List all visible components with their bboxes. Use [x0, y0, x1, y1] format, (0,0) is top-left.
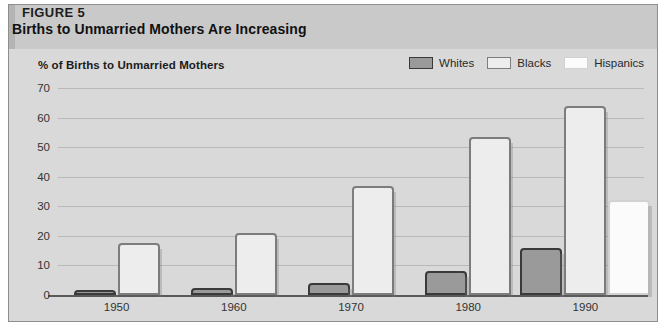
legend-item-blacks[interactable]: Blacks [487, 57, 551, 69]
legend-swatch-whites [409, 57, 433, 69]
x-axis-tick-1950: 1950 [104, 301, 130, 313]
y-axis-title: % of Births to Unmarried Mothers [38, 59, 225, 71]
bar-whites-1970[interactable] [308, 283, 350, 295]
chart-legend: WhitesBlacksHispanics [409, 57, 644, 69]
plot-area: 01020304050607019501960197019801990 [58, 88, 644, 295]
bar-blacks-1970[interactable] [352, 186, 394, 295]
gridline-70 [58, 88, 644, 89]
bar-group-1970 [308, 186, 394, 295]
bar-blacks-1950[interactable] [118, 243, 160, 295]
legend-label-hispanics: Hispanics [594, 57, 644, 69]
x-axis-tick-1970: 1970 [338, 301, 364, 313]
bar-whites-1990[interactable] [520, 248, 562, 295]
legend-swatch-blacks [487, 57, 511, 69]
figure-number: FIGURE 5 [22, 5, 85, 20]
y-axis-tick-0: 0 [44, 289, 50, 301]
x-axis-tick-1980: 1980 [455, 301, 481, 313]
legend-swatch-hispanics [564, 57, 588, 69]
y-axis-tick-10: 10 [37, 259, 50, 271]
figure-container: FIGURE 5 Births to Unmarried Mothers Are… [0, 0, 666, 336]
legend-item-hispanics[interactable]: Hispanics [564, 57, 644, 69]
y-axis-tick-50: 50 [37, 141, 50, 153]
bar-whites-1980[interactable] [425, 271, 467, 295]
bar-group-1960 [191, 233, 277, 295]
figure-title: Births to Unmarried Mothers Are Increasi… [12, 21, 307, 37]
legend-label-blacks: Blacks [517, 57, 551, 69]
legend-item-whites[interactable]: Whites [409, 57, 474, 69]
bar-whites-1950[interactable] [74, 290, 116, 295]
y-axis-tick-20: 20 [37, 230, 50, 242]
bar-whites-1960[interactable] [191, 288, 233, 295]
bar-blacks-1960[interactable] [235, 233, 277, 295]
y-axis-tick-30: 30 [37, 200, 50, 212]
bar-group-1950 [74, 243, 160, 295]
bar-group-1990 [520, 106, 650, 295]
y-axis-tick-60: 60 [37, 112, 50, 124]
x-axis-tick-1990: 1990 [573, 301, 599, 313]
bar-hispanics-1990[interactable] [608, 200, 650, 295]
bar-group-1980 [425, 137, 511, 295]
bar-blacks-1990[interactable] [564, 106, 606, 295]
x-axis-tick-1960: 1960 [221, 301, 247, 313]
legend-label-whites: Whites [439, 57, 474, 69]
y-axis-tick-40: 40 [37, 171, 50, 183]
y-axis-tick-70: 70 [37, 82, 50, 94]
bar-blacks-1980[interactable] [469, 137, 511, 295]
